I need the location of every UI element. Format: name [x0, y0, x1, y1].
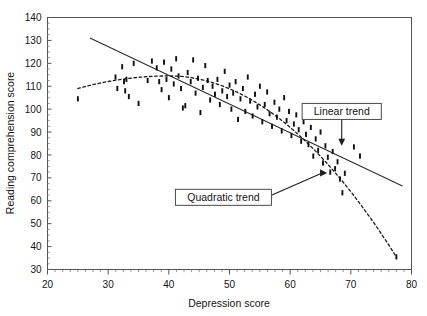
data-point — [273, 100, 275, 105]
data-point — [221, 88, 223, 93]
data-point — [324, 143, 326, 148]
data-point — [337, 159, 339, 164]
data-point — [124, 88, 126, 93]
data-point — [173, 81, 175, 86]
data-point — [359, 154, 361, 159]
data-point — [202, 85, 204, 90]
data-point — [133, 61, 135, 66]
data-point — [224, 69, 226, 74]
data-point — [264, 102, 266, 107]
data-point — [151, 58, 153, 63]
data-point — [178, 73, 180, 78]
data-point — [276, 115, 278, 120]
y-tick-label-50: 50 — [30, 218, 42, 229]
data-point — [226, 94, 228, 99]
data-point — [195, 91, 197, 96]
data-point — [192, 57, 194, 62]
y-tick-label-80: 80 — [30, 150, 42, 161]
x-tick-label-30: 30 — [103, 279, 115, 290]
y-tick-label-120: 120 — [25, 58, 42, 69]
data-point — [334, 166, 336, 171]
data-point — [219, 102, 221, 107]
data-point — [123, 79, 125, 84]
data-point — [237, 117, 239, 122]
data-point — [332, 149, 334, 154]
data-point — [207, 78, 209, 83]
data-point — [295, 112, 297, 117]
y-axis-title: Reading comprehension score — [4, 72, 16, 215]
data-point — [240, 96, 242, 101]
data-point — [320, 129, 322, 134]
y-tick-label-30: 30 — [30, 264, 42, 275]
data-point — [214, 92, 216, 97]
data-point — [168, 95, 170, 100]
data-point — [229, 82, 231, 87]
data-point — [161, 87, 163, 92]
data-point — [252, 113, 254, 118]
data-point — [115, 74, 117, 79]
data-point — [138, 101, 140, 106]
data-point — [322, 160, 324, 165]
data-point — [353, 144, 355, 149]
data-point — [339, 176, 341, 181]
data-point — [257, 104, 259, 109]
y-tick-label-60: 60 — [30, 195, 42, 206]
data-point — [249, 99, 251, 104]
data-point — [254, 92, 256, 97]
x-tick-label-70: 70 — [345, 279, 357, 290]
data-point — [395, 254, 397, 259]
data-point — [300, 139, 302, 144]
data-point — [77, 96, 79, 101]
data-point — [232, 91, 234, 96]
x-tick-label-40: 40 — [163, 279, 175, 290]
y-tick-label-70: 70 — [30, 172, 42, 183]
data-point — [305, 132, 307, 137]
data-point — [235, 79, 237, 84]
data-point — [184, 103, 186, 108]
data-point — [197, 76, 199, 81]
data-point — [244, 109, 246, 114]
data-point — [298, 127, 300, 132]
x-axis-title: Depression score — [188, 297, 270, 309]
data-point — [261, 119, 263, 124]
data-point — [204, 63, 206, 68]
data-point — [312, 154, 314, 159]
data-point — [187, 70, 189, 75]
x-tick-label-80: 80 — [406, 279, 418, 290]
data-point — [283, 95, 285, 100]
data-point — [212, 84, 214, 89]
data-point — [175, 56, 177, 61]
data-point — [266, 89, 268, 94]
y-tick-label-140: 140 — [25, 12, 42, 23]
data-point — [288, 109, 290, 114]
data-point — [290, 133, 292, 138]
y-tick-label-90: 90 — [30, 127, 42, 138]
y-tick-label-110: 110 — [26, 81, 42, 92]
data-point — [271, 124, 273, 129]
data-point — [209, 97, 211, 102]
chart-canvas: 30405060708090100110120130140 2030405060… — [0, 0, 427, 316]
data-point — [121, 64, 123, 69]
scatter-chart: 30405060708090100110120130140 2030405060… — [0, 0, 427, 316]
data-point — [247, 74, 249, 79]
data-point — [269, 111, 271, 116]
data-point — [281, 128, 283, 133]
data-point — [344, 171, 346, 176]
y-tick-label-100: 100 — [25, 104, 42, 115]
data-point — [310, 125, 312, 130]
data-point — [329, 170, 331, 175]
data-point — [182, 105, 184, 110]
x-tick-label-50: 50 — [224, 279, 236, 290]
chart-background — [0, 0, 427, 316]
data-point — [315, 136, 317, 141]
data-point — [259, 84, 261, 89]
data-point — [158, 79, 160, 84]
data-point — [341, 190, 343, 195]
data-point — [307, 142, 309, 147]
data-point — [242, 86, 244, 91]
data-point — [116, 86, 118, 91]
linear-trend-callout-label: Linear trend — [314, 105, 370, 117]
data-point — [147, 78, 149, 83]
data-point — [317, 148, 319, 153]
data-point — [286, 118, 288, 123]
